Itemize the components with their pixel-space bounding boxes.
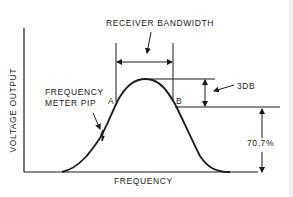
pip-arrow — [93, 113, 100, 129]
pip-label-line1: FREQUENCY — [45, 88, 104, 97]
pip-label-line2: METER PIP — [45, 99, 96, 108]
bandwidth-diagram: RECEIVER BANDWIDTH 3DB 70.7% A B FREQUEN… — [0, 0, 293, 197]
y-axis-label: VOLTAGE OUTPUT — [9, 68, 18, 153]
db-label: 3DB — [237, 82, 255, 91]
point-a-label: A — [108, 97, 114, 106]
diagram-graphic — [0, 0, 293, 197]
x-axis-label: FREQUENCY — [114, 177, 173, 186]
scan-edge — [289, 0, 293, 197]
db-label-pointer — [214, 85, 234, 91]
percent-label: 70.7% — [247, 138, 274, 149]
receiver-bandwidth-label: RECEIVER BANDWIDTH — [106, 19, 214, 28]
bandwidth-label-pointer — [147, 32, 151, 53]
point-b-label: B — [176, 97, 182, 106]
